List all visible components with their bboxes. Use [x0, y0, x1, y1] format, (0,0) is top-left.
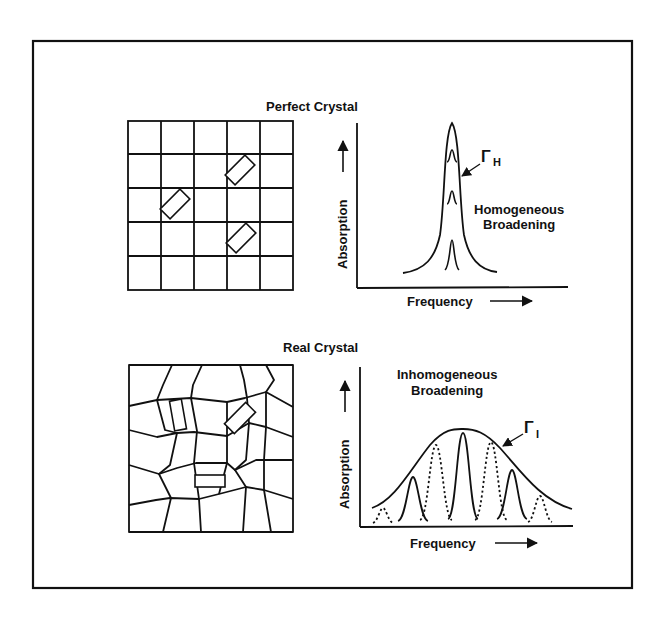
solid-sub-lines: [398, 433, 527, 521]
sub-line: [448, 433, 478, 519]
defect: [160, 189, 190, 219]
crystal-broadening-figure: Perfect Crystal Absorption: [0, 0, 655, 623]
sub-line: [420, 445, 452, 520]
x-axis-label: Frequency: [407, 294, 474, 309]
homogeneous-chart: Absorption Frequency Γ H Homogeneous Bro…: [335, 123, 568, 309]
defect: [226, 223, 256, 253]
sub-line: [528, 496, 552, 522]
figure-frame: [33, 41, 632, 588]
x-axis-label: Frequency: [410, 536, 477, 551]
real-crystal-panel: Real Crystal Absorption: [129, 340, 573, 551]
defect: [224, 402, 255, 433]
defect: [225, 155, 255, 185]
gamma-i-subscript: I: [536, 428, 539, 440]
perfect-lattice-grid: [128, 121, 293, 290]
perfect-lattice-defects: [160, 155, 256, 253]
perfect-crystal-title: Perfect Crystal: [266, 99, 358, 114]
x-axis: [357, 287, 568, 288]
dotted-sub-lines: [373, 442, 552, 523]
x-axis: [360, 526, 573, 527]
gamma-i-pointer-arrow-icon: [503, 434, 523, 446]
defect: [195, 475, 225, 487]
perfect-crystal-panel: Perfect Crystal Absorption: [128, 99, 568, 309]
homogeneous-label-line1: Homogeneous: [474, 202, 564, 217]
real-lattice-grid: [129, 365, 293, 532]
sub-line: [373, 508, 393, 523]
homogeneous-component-line: [447, 150, 457, 162]
gamma-h-pointer-arrow-icon: [462, 164, 480, 176]
defect: [169, 399, 186, 431]
homogeneous-component-line: [445, 240, 459, 270]
homogeneous-component-line: [447, 191, 457, 204]
real-lattice-defects: [169, 399, 255, 487]
y-axis-label: Absorption: [335, 200, 350, 269]
inhomogeneous-chart: Absorption Frequency Γ I: [337, 367, 573, 551]
homogeneous-label-line2: Broadening: [483, 217, 555, 232]
gamma-i-symbol: Γ: [524, 419, 534, 436]
inhomogeneous-label-line2: Broadening: [411, 383, 483, 398]
inhomogeneous-label-line1: Inhomogeneous: [397, 367, 497, 382]
y-axis-label: Absorption: [337, 440, 352, 509]
sub-line: [497, 470, 527, 519]
gamma-h-symbol: Γ: [481, 148, 491, 165]
gamma-h-subscript: H: [493, 156, 501, 168]
real-crystal-title: Real Crystal: [283, 340, 358, 355]
